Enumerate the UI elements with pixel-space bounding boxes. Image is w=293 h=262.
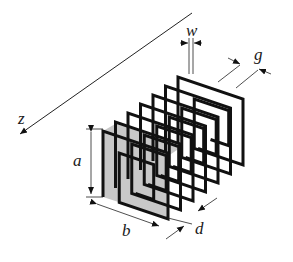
z-axis-label: z xyxy=(17,109,25,128)
dimension-g xyxy=(218,58,271,88)
spiral-resonator-array-diagram: z a b d w g xyxy=(0,0,293,262)
dimension-a xyxy=(86,129,103,197)
dimension-b-label: b xyxy=(122,221,131,240)
dimension-a-label: a xyxy=(73,151,82,170)
dimension-d xyxy=(166,198,217,239)
dimension-w-label: w xyxy=(186,21,198,40)
dimension-d-label: d xyxy=(195,219,204,238)
dimension-g-label: g xyxy=(254,45,263,64)
dimension-w xyxy=(180,38,202,74)
